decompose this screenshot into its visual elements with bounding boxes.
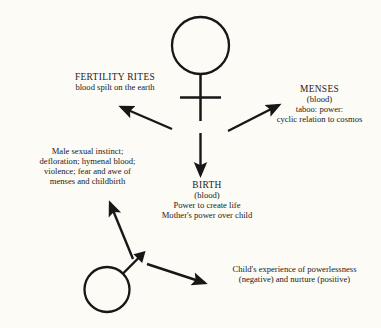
arrow-to-child-experience [147, 264, 205, 283]
diagram-canvas: FERTILITY RITES blood spilt on the earth… [0, 0, 381, 328]
male-instinct-line-0: Male sexual instinct; [10, 146, 165, 156]
arrow-to-male-instinct [110, 203, 133, 259]
child-experience-line-0: Child's experience of powerlessness [208, 264, 381, 274]
fertility-rites-line-0: blood spilt on the earth [40, 82, 190, 92]
venus-symbol [172, 17, 229, 121]
node-child-experience: Child's experience of powerlessness (neg… [208, 264, 381, 284]
birth-line-2: Mother's power over child [137, 210, 277, 220]
menses-line-2: cyclic relation to cosmos [258, 114, 381, 124]
menses-line-0: (blood) [258, 94, 381, 104]
fertility-rites-title: FERTILITY RITES [40, 72, 190, 82]
birth-line-0: (blood) [137, 190, 277, 200]
node-menses: MENSES (blood) taboo: power: cyclic rela… [258, 84, 381, 124]
male-instinct-line-1: defloration; hymenal blood; [10, 156, 165, 166]
male-instinct-line-2: violence; fear and awe of [10, 166, 165, 176]
arrow-to-fertility-rites [121, 107, 172, 129]
mars-symbol [85, 251, 146, 312]
menses-line-1: taboo: power: [258, 104, 381, 114]
menses-title: MENSES [258, 84, 381, 94]
node-fertility-rites: FERTILITY RITES blood spilt on the earth [40, 72, 190, 92]
node-birth: BIRTH (blood) Power to create life Mothe… [137, 180, 277, 220]
birth-line-1: Power to create life [137, 200, 277, 210]
birth-title: BIRTH [137, 180, 277, 190]
child-experience-line-1: (negative) and nurture (positive) [208, 274, 381, 284]
